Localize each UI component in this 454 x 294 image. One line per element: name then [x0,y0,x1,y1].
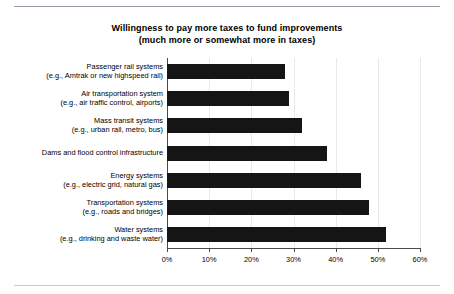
category-label-main: Water systems [114,225,163,234]
chart-title: Willingness to pay more taxes to fund im… [40,22,414,46]
bar [167,64,285,79]
x-tickmark [336,248,337,252]
category-label-sub: (e.g., urban rail, metro, bus) [11,125,163,134]
top-divider-rule [14,6,440,7]
category-label-sub: (e.g., air traffic control, airports) [11,98,163,107]
x-axis-tick-labels: 0%10%20%30%40%50%60% [167,255,420,269]
gridline [420,58,421,248]
category-label: Air transportation system(e.g., air traf… [11,89,163,107]
x-tickmark [209,248,210,252]
category-label: Mass transit systems(e.g., urban rail, m… [11,116,163,134]
category-label-main: Dams and flood control infrastructure [42,148,163,157]
x-tick-label: 30% [274,255,314,264]
bar [167,91,289,106]
category-label: Dams and flood control infrastructure [11,148,163,157]
x-tickmark [167,248,168,252]
x-tickmark [251,248,252,252]
category-label: Transportation systems(e.g., roads and b… [11,198,163,216]
gridline [378,58,379,248]
x-tick-label: 0% [147,255,187,264]
category-label: Energy systems(e.g., electric grid, natu… [11,171,163,189]
bar [167,146,327,161]
x-tick-label: 50% [358,255,398,264]
category-label-sub: (e.g., electric grid, natural gas) [11,180,163,189]
chart-title-line1: Willingness to pay more taxes to fund im… [112,23,343,33]
category-label-main: Transportation systems [86,198,163,207]
category-axis-labels: Passenger rail systems(e.g., Amtrak or n… [9,58,163,248]
bar [167,118,302,133]
category-label: Passenger rail systems(e.g., Amtrak or n… [11,62,163,80]
category-label-main: Air transportation system [81,89,163,98]
bar [167,200,369,215]
gridline [336,58,337,248]
plot-area [167,58,420,248]
category-label-main: Passenger rail systems [87,62,163,71]
x-tick-label: 10% [189,255,229,264]
x-tickmark [294,248,295,252]
x-tick-label: 40% [316,255,356,264]
category-label-main: Energy systems [110,171,163,180]
chart-title-line2: (much more or somewhat more in taxes) [40,34,414,46]
category-label-sub: (e.g., roads and bridges) [11,207,163,216]
chart-figure: Willingness to pay more taxes to fund im… [0,0,454,294]
x-tick-label: 60% [400,255,440,264]
category-label-main: Mass transit systems [94,116,163,125]
x-tickmark [378,248,379,252]
bar [167,173,361,188]
category-label-sub: (e.g., Amtrak or new highspeed rail) [11,71,163,80]
bottom-divider-rule [14,285,440,286]
category-label-sub: (e.g., drinking and waste water) [11,234,163,243]
category-label: Water systems(e.g., drinking and waste w… [11,225,163,243]
x-tickmark [420,248,421,252]
bar [167,227,386,242]
x-tick-label: 20% [231,255,271,264]
